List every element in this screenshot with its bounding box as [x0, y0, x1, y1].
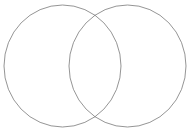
diagram-background	[0, 0, 190, 132]
venn-diagram-canvas	[0, 0, 190, 132]
venn-diagram-svg	[0, 0, 190, 132]
